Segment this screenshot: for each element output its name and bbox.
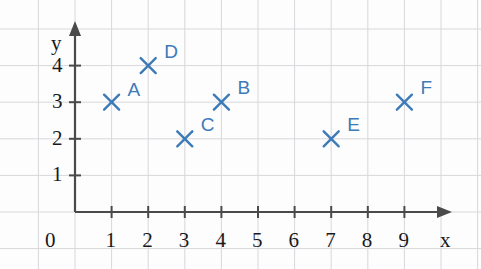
axes (69, 21, 452, 218)
y-tick-label-3: 3 (52, 91, 63, 112)
x-tick-label-5: 5 (252, 230, 263, 251)
x-tick-label-6: 6 (289, 230, 300, 251)
point-label-E: E (347, 115, 360, 134)
x-tick-label-9: 9 (398, 230, 409, 251)
y-tick-label-4: 4 (52, 55, 63, 76)
x-axis-label: x (440, 230, 451, 251)
point-label-D: D (164, 42, 178, 61)
x-tick-label-1: 1 (106, 230, 117, 251)
y-axis-label: y (51, 33, 62, 54)
point-label-C: C (201, 115, 215, 134)
point-label-B: B (237, 78, 250, 97)
origin-label: 0 (45, 230, 56, 251)
x-tick-label-7: 7 (325, 230, 336, 251)
graph-figure: ADCBEF12345678912340yx (0, 0, 481, 269)
y-tick-label-2: 2 (52, 128, 63, 149)
x-tick-label-3: 3 (179, 230, 190, 251)
y-tick-label-1: 1 (52, 164, 63, 185)
x-tick-label-2: 2 (142, 230, 153, 251)
point-label-A: A (128, 80, 141, 99)
x-axis-arrowhead (437, 206, 452, 218)
x-tick-label-8: 8 (362, 230, 373, 251)
point-label-F: F (420, 78, 432, 97)
x-tick-label-4: 4 (215, 230, 226, 251)
